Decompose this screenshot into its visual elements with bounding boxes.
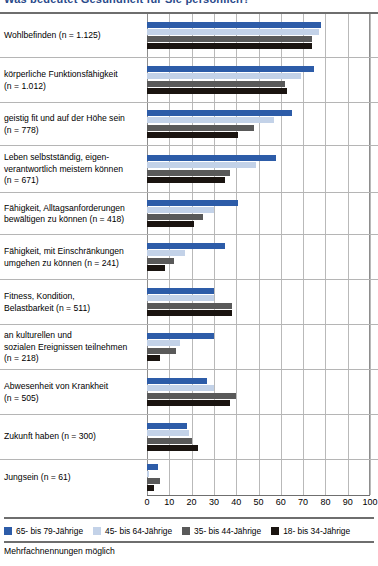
bar — [147, 355, 160, 361]
footnote: Mehrfachnennungen möglich — [4, 546, 115, 556]
row-bars — [147, 146, 378, 192]
row-bars — [147, 193, 378, 234]
bar — [147, 81, 285, 87]
bar — [147, 73, 301, 79]
row-bars — [147, 14, 378, 57]
axis-tick-label: 10 — [164, 497, 174, 507]
row-bars — [147, 460, 378, 495]
row-bars — [147, 235, 378, 279]
axis-tick-label: 0 — [144, 497, 149, 507]
row-label: Abwesenheit von Krankheit(n = 505) — [4, 381, 144, 404]
axis-tick-label: 20 — [187, 497, 197, 507]
legend-18-34[interactable]: 18- bis 34-Jährige — [271, 526, 350, 536]
axis-tick-label: 70 — [298, 497, 308, 507]
bar — [147, 464, 158, 470]
bar — [147, 438, 192, 444]
bar — [147, 423, 187, 429]
row-label: körperliche Funktionsfähigkeit(n = 1.012… — [4, 69, 144, 92]
chart-row: körperliche Funktionsfähigkeit(n = 1.012… — [0, 58, 378, 103]
bar — [147, 117, 274, 123]
bar — [147, 162, 256, 168]
bar — [147, 485, 154, 491]
bar — [147, 348, 176, 354]
chart-container: Was bedeutet Gesundheit für Sie persönli… — [0, 0, 378, 566]
axis-tick-label: 40 — [231, 497, 241, 507]
chart-row: Leben selbstständig, eigen-verantwortlic… — [0, 146, 378, 193]
x-axis: 0102030405060708090100 — [0, 495, 378, 515]
chart-row: Wohlbefinden (n = 1.125) — [0, 14, 378, 58]
legend-45-64[interactable]: 45- bis 64-Jährige — [93, 526, 172, 536]
legend-divider — [4, 541, 374, 543]
axis-tick-label: 80 — [320, 497, 330, 507]
chart-row: an kulturellen undsozialen Ereignissen t… — [0, 325, 378, 370]
bar — [147, 170, 230, 176]
bar — [147, 265, 165, 271]
bar — [147, 310, 232, 316]
legend-label: 65- bis 79-Jährige — [16, 526, 83, 536]
chart-row: Zukunft haben (n = 300) — [0, 415, 378, 460]
bar — [147, 250, 185, 256]
bar — [147, 132, 238, 138]
row-bars — [147, 370, 378, 414]
row-label: geistig fit und auf der Höhe sein(n = 77… — [4, 113, 144, 136]
bar — [147, 207, 214, 213]
chart-row: Fähigkeit, Alltagsanforderungenbewältige… — [0, 193, 378, 235]
legend-swatch-icon — [271, 527, 279, 535]
bar — [147, 125, 254, 131]
bar — [147, 110, 292, 116]
legend-35-44[interactable]: 35- bis 44-Jährige — [182, 526, 261, 536]
row-label: Zukunft haben (n = 300) — [4, 431, 144, 443]
axis-tick-label: 90 — [343, 497, 353, 507]
bar — [147, 385, 214, 391]
legend-65-79[interactable]: 65- bis 79-Jährige — [4, 526, 83, 536]
axis-tick-label: 60 — [276, 497, 286, 507]
legend-label: 45- bis 64-Jährige — [105, 526, 172, 536]
bar — [147, 471, 149, 477]
axis-bottom-divider — [4, 517, 374, 519]
bar — [147, 303, 232, 309]
bar — [147, 340, 180, 346]
bar — [147, 478, 160, 484]
bar — [147, 36, 312, 42]
bar — [147, 288, 214, 294]
bar — [147, 66, 314, 72]
bar — [147, 200, 238, 206]
row-label: Fähigkeit, mit Einschränkungenumgehen zu… — [4, 246, 144, 269]
bar — [147, 445, 198, 451]
row-label: Fitness, Kondition,Belastbarkeit (n = 51… — [4, 291, 144, 314]
chart-row: Fitness, Kondition,Belastbarkeit (n = 51… — [0, 280, 378, 325]
row-label: Fähigkeit, Alltagsanforderungenbewältige… — [4, 202, 144, 225]
row-label: Leben selbstständig, eigen-verantwortlic… — [4, 152, 144, 187]
bar — [147, 333, 214, 339]
bar — [147, 177, 225, 183]
row-bars — [147, 325, 378, 369]
legend-swatch-icon — [4, 527, 12, 535]
axis-tick-label: 100 — [362, 497, 377, 507]
bar — [147, 43, 312, 49]
x-axis-line — [147, 495, 370, 496]
axis-tick-label: 30 — [209, 497, 219, 507]
chart-legend: 65- bis 79-Jährige45- bis 64-Jährige35- … — [4, 524, 374, 538]
legend-swatch-icon — [93, 527, 101, 535]
bar — [147, 378, 207, 384]
axis-tick-label: 50 — [253, 497, 263, 507]
page-title: Was bedeutet Gesundheit für Sie persönli… — [4, 0, 250, 5]
bar — [147, 29, 319, 35]
row-label: an kulturellen undsozialen Ereignissen t… — [4, 330, 144, 365]
row-bars — [147, 103, 378, 145]
bar — [147, 393, 236, 399]
bar — [147, 295, 214, 301]
row-bars — [147, 280, 378, 324]
bar — [147, 88, 287, 94]
chart-row: Jungsein (n = 61) — [0, 460, 378, 495]
row-bars — [147, 415, 378, 459]
row-bars — [147, 58, 378, 102]
legend-swatch-icon — [182, 527, 190, 535]
bar — [147, 22, 321, 28]
bar — [147, 258, 174, 264]
bar — [147, 430, 189, 436]
chart-rows: Wohlbefinden (n = 1.125)körperliche Funk… — [0, 14, 378, 495]
chart-row: geistig fit und auf der Höhe sein(n = 77… — [0, 103, 378, 146]
bar — [147, 155, 276, 161]
row-label: Jungsein (n = 61) — [4, 472, 144, 484]
